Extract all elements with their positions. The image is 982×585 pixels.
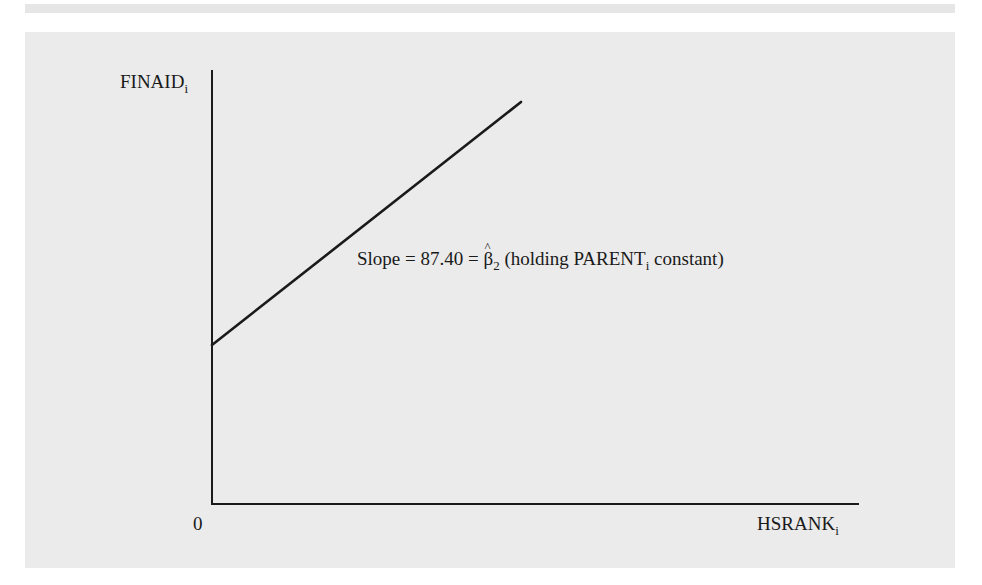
y-axis-label-text: FINAID [120, 71, 184, 92]
origin-label-text: 0 [193, 513, 203, 534]
x-axis-label-subscript: i [835, 523, 839, 538]
y-axis-label-subscript: i [184, 81, 188, 96]
regression-line [212, 102, 521, 345]
origin-label: 0 [193, 514, 203, 533]
beta-hat-symbol: β [483, 249, 493, 268]
beta-symbol: β [483, 248, 493, 269]
slope-annotation-prefix: Slope = 87.40 = [357, 248, 483, 269]
x-axis-label: HSRANKi [757, 514, 839, 533]
slope-annotation-suffix: constant) [649, 248, 723, 269]
slope-annotation-middle: (holding PARENT [500, 248, 646, 269]
x-axis-label-text: HSRANK [757, 513, 835, 534]
y-axis-label: FINAIDi [120, 72, 188, 91]
slope-annotation: Slope = 87.40 = β2 (holding PARENTi cons… [357, 249, 724, 268]
